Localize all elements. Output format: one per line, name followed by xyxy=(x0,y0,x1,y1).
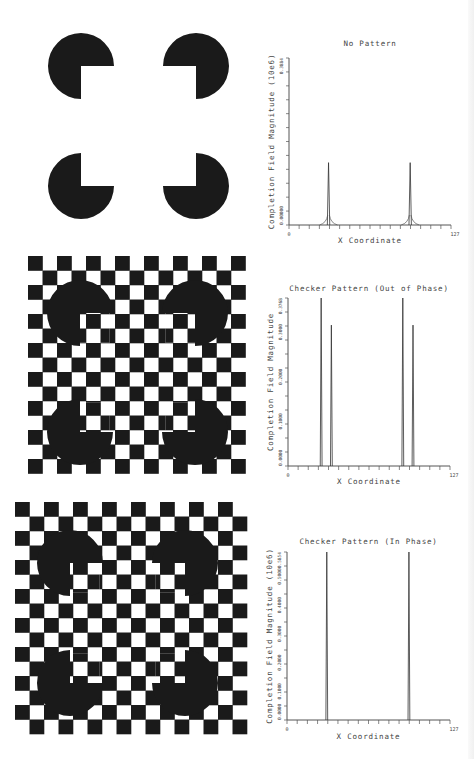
chart-3: Checker Pattern (In Phase)0127X Coordina… xyxy=(265,537,459,741)
peak xyxy=(402,298,404,466)
y-tick-label: 0.0000 xyxy=(278,449,283,466)
peak xyxy=(412,325,414,466)
y-tick-label: 0.0000 xyxy=(277,703,282,720)
stimulus-2 xyxy=(28,256,246,474)
stimulus-1 xyxy=(48,33,229,219)
y-tick-label: 0.5854 xyxy=(277,552,282,569)
x-axis-label: X Coordinate xyxy=(338,236,402,245)
y-tick-label: 0.2000 xyxy=(278,368,283,385)
peak xyxy=(330,325,332,466)
chart-title: No Pattern xyxy=(343,39,396,48)
x-axis-label: X Coordinate xyxy=(337,477,401,486)
chart-title: Checker Pattern (In Phase) xyxy=(299,537,437,546)
x-tick-label: 0 xyxy=(286,472,289,478)
y-axis-label: Completion Field Magnitude xyxy=(266,313,275,451)
y-axis-label: Completion Field Magnitude (10e6) xyxy=(267,54,276,229)
chart-1: No Pattern0127X Coordinate0.000000.3884C… xyxy=(267,39,460,245)
peak xyxy=(320,298,322,466)
x-tick-label: 127 xyxy=(450,231,459,237)
figure-canvas: No Pattern0127X Coordinate0.000000.3884C… xyxy=(0,0,474,759)
y-tick-label: 0.5000 xyxy=(277,568,282,585)
pacman-inducer xyxy=(163,33,229,99)
stimulus-3 xyxy=(15,502,247,734)
pacman-inducer xyxy=(163,153,229,219)
chart-2: Checker Pattern (Out of Phase)0127X Coor… xyxy=(266,284,459,486)
y-tick-label: 0.4000 xyxy=(277,597,282,614)
peak xyxy=(408,552,410,720)
chart-title: Checker Pattern (Out of Phase) xyxy=(289,284,448,293)
y-tick-label: 0.3768 xyxy=(278,298,283,315)
x-tick-label: 127 xyxy=(449,472,458,478)
kanizsa-stimuli xyxy=(15,33,247,734)
y-tick-label: 0.00000 xyxy=(279,206,284,225)
completion-field-charts: No Pattern0127X Coordinate0.000000.3884C… xyxy=(265,39,460,741)
y-tick-label: 0.3000 xyxy=(277,625,282,642)
x-axis-label: X Coordinate xyxy=(337,732,401,741)
page-edge-shadow xyxy=(468,0,474,759)
x-tick-label: 0 xyxy=(287,231,290,237)
y-tick-label: 0.1000 xyxy=(278,413,283,430)
pacman-inducer xyxy=(48,33,114,99)
pacman-inducer xyxy=(48,153,114,219)
y-tick-label: 0.3884 xyxy=(279,58,284,75)
y-tick-label: 0.1000 xyxy=(277,683,282,700)
y-tick-label: 0.3000 xyxy=(278,324,283,341)
peak xyxy=(326,552,328,720)
y-axis-label: Completion Field Magnitude (10e6) xyxy=(265,548,274,723)
y-tick-label: 0.2000 xyxy=(277,654,282,671)
x-tick-label: 127 xyxy=(449,726,458,732)
x-tick-label: 0 xyxy=(285,726,288,732)
